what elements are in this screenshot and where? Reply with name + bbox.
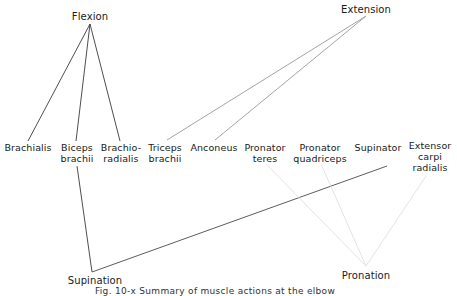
connector-extension-to-triceps-brachii (167, 16, 366, 140)
connector-flexion-to-biceps-brachii (76, 24, 90, 141)
action-label-supination: Supination (68, 275, 122, 286)
figure-caption: Fig. 10-x Summary of muscle actions at t… (95, 286, 335, 296)
muscle-label-triceps-brachii: Triceps brachii (148, 142, 182, 164)
muscle-label-supinator: Supinator (355, 142, 402, 153)
connector-flexion-to-brachioradialis (90, 24, 120, 141)
muscle-label-anconeus: Anconeus (190, 142, 237, 153)
action-label-extension: Extension (341, 4, 391, 15)
muscle-label-pronator-teres: Pronator teres (244, 142, 285, 164)
muscle-label-pronator-quadriceps: Pronator quadriceps (293, 142, 347, 164)
action-label-pronation: Pronation (342, 270, 390, 281)
connector-pronation-to-pronator-quadriceps (321, 164, 366, 266)
muscle-label-biceps-brachii: Biceps brachii (61, 142, 94, 164)
muscle-label-extensor-carpi-radialis: Extensor carpi radialis (409, 140, 452, 173)
action-label-flexion: Flexion (72, 11, 108, 22)
connector-flexion-to-brachialis (28, 24, 90, 141)
connector-pronation-to-extensor-carpi-radialis (366, 176, 426, 266)
connector-extension-to-anconeus (215, 16, 366, 140)
connector-supination-to-supinator (92, 166, 387, 272)
muscle-label-brachialis: Brachialis (4, 142, 51, 153)
muscle-label-brachioradialis: Brachio- radialis (101, 142, 141, 164)
connector-supination-to-biceps-brachii (77, 166, 92, 272)
